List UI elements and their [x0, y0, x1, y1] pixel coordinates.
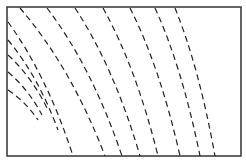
dashed-line — [103, 8, 158, 156]
dashed-line — [8, 40, 58, 130]
dashed-line — [75, 8, 140, 156]
dashed-line — [8, 22, 73, 156]
dashed-line — [155, 8, 200, 156]
dashed-line — [8, 90, 38, 120]
dashed-line — [130, 8, 180, 156]
dashed-line — [8, 55, 48, 110]
figure-caption — [40, 158, 160, 166]
dashed-lines-group — [8, 8, 215, 156]
dashed-line — [20, 8, 105, 156]
dashed-line — [47, 8, 122, 156]
frame-rectangle — [7, 7, 241, 156]
diagram-figure — [0, 0, 246, 167]
dashed-line — [8, 72, 42, 115]
